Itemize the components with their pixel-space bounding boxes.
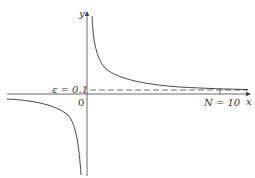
x-axis-label: x: [246, 96, 252, 107]
function-graph: y x 0 ε = 0.1 N = 10: [0, 0, 255, 178]
origin-label: 0: [78, 97, 84, 108]
curve-negative-branch: [7, 99, 81, 175]
curve-positive-branch: [92, 16, 248, 90]
epsilon-label: ε = 0.1: [52, 84, 88, 95]
n-label: N = 10: [203, 97, 241, 108]
y-axis-label: y: [78, 8, 85, 19]
